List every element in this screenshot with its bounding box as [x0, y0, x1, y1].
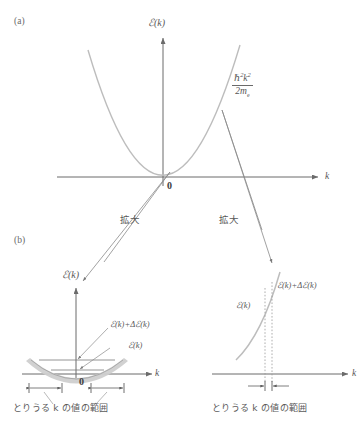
panel-a-tag: (a) [14, 17, 25, 27]
panel-a-origin-label: 0 [167, 181, 172, 191]
figure-drawing [0, 0, 362, 428]
panel-b-left-leader-lower [80, 348, 110, 369]
panel-b-left-range-caption: とりうる k の値の範囲 [13, 404, 109, 413]
zoom-label-left: 拡大 [120, 215, 141, 225]
panel-a-zoom-arrow-right [222, 110, 272, 263]
panel-b-right-lower-band-label: ℰ(k) [236, 301, 250, 310]
dispersion-formula: ℏ2k2 2me [232, 72, 253, 98]
panel-a-zoom-arrow-left [83, 172, 170, 281]
panel-b-right-range-caption: とりうる k の値の範囲 [212, 404, 308, 413]
panel-b-right-x-axis-label: k [352, 369, 356, 379]
panel-b-left-krange-left [29, 383, 62, 393]
panel-b-left-upper-band-label: ℰ(k)+Δℰ(k) [110, 320, 150, 329]
panel-b-right-krange [248, 381, 289, 391]
panel-b-left-x-axis-label: k [155, 369, 159, 379]
figure-container: (a) ℰ(k) k 0 ℏ2k2 2me ℏ²k² 2mₑ 拡大 拡大 (b)… [0, 0, 362, 428]
zoom-label-right: 拡大 [219, 215, 240, 225]
panel-b-right-parabola [236, 272, 280, 360]
panel-b-left-lower-band-label: ℰ(k) [128, 341, 142, 350]
panel-a-group [57, 38, 318, 281]
panel-b-tag: (b) [14, 236, 25, 246]
panel-b-right-upper-band-label: ℰ(k)+Δℰ(k) [277, 281, 317, 290]
panel-b-left-y-axis-label: ℰ(k) [62, 270, 79, 280]
panel-b-left-band [26, 358, 128, 384]
formula-numerator: ℏ2k2 [232, 72, 253, 86]
panel-a-x-axis-label: k [325, 172, 329, 182]
panel-a-y-axis-label: ℰ(k) [148, 18, 165, 28]
panel-b-left-origin-label: 0 [79, 377, 84, 387]
panel-b-left-parabola-lower [31, 360, 123, 379]
formula-denominator: 2me [232, 86, 253, 99]
panel-a-parabola [88, 45, 240, 175]
panel-b-left-leader-upper [78, 328, 108, 359]
panel-b-left-krange-right [91, 383, 124, 393]
